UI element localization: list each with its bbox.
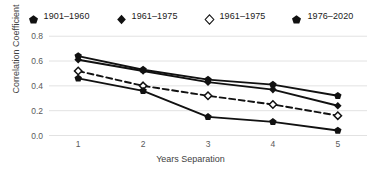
y-axis-title: Correlation Coefficient: [11, 0, 21, 109]
x-axis-title: Years Separation: [0, 154, 381, 164]
pentagon-filled-icon: [291, 11, 302, 22]
legend-item-1901-1960[interactable]: 1901–1960: [28, 11, 90, 22]
x-tick-label: 3: [206, 139, 211, 149]
plot-svg: [49, 30, 367, 138]
y-tick-label: 0.0: [31, 131, 43, 141]
plot-area: [49, 30, 367, 138]
y-tick-label: 0.2: [31, 106, 43, 116]
legend-label: 1976–2020: [307, 11, 353, 21]
data-point-hollow-diamond: [204, 92, 211, 99]
data-point-pentagon: [74, 75, 81, 82]
data-point-hollow-diamond: [269, 101, 276, 108]
data-point-pentagon: [334, 92, 341, 99]
data-point-filled-diamond: [334, 102, 342, 110]
legend-item-1961-1975-hollow[interactable]: 1961–1975: [204, 11, 266, 22]
data-point-hollow-diamond: [334, 112, 341, 119]
legend-label: 1961–1975: [132, 11, 178, 21]
y-tick-label: 0.4: [31, 81, 43, 91]
legend-item-1961-1975-filled[interactable]: 1961–1975: [116, 11, 178, 22]
y-tick-labels: 0.00.20.40.60.8: [0, 26, 49, 146]
chart-legend: 1901–1960 1961–1975 1961–1975: [0, 6, 381, 26]
diamond-filled-icon: [116, 11, 127, 22]
x-tick-label: 5: [335, 139, 340, 149]
legend-item-1976-2020[interactable]: 1976–2020: [291, 11, 353, 22]
data-point-filled-diamond: [269, 86, 277, 94]
x-tick-label: 2: [141, 139, 146, 149]
y-tick-label: 0.8: [31, 31, 43, 41]
data-point-pentagon: [269, 118, 276, 125]
data-point-hollow-diamond: [75, 67, 82, 74]
x-tick-label: 1: [76, 139, 81, 149]
correlation-line-chart: 1901–1960 1961–1975 1961–1975: [0, 0, 381, 172]
legend-label: 1961–1975: [220, 11, 266, 21]
x-tick-label: 4: [271, 139, 276, 149]
data-point-pentagon: [334, 127, 341, 134]
y-tick-label: 0.6: [31, 56, 43, 66]
pentagon-filled-icon: [28, 11, 39, 22]
data-point-pentagon: [204, 113, 211, 120]
diamond-hollow-icon: [204, 11, 215, 22]
x-tick-labels: 12345: [49, 136, 369, 152]
legend-label: 1901–1960: [44, 11, 90, 21]
